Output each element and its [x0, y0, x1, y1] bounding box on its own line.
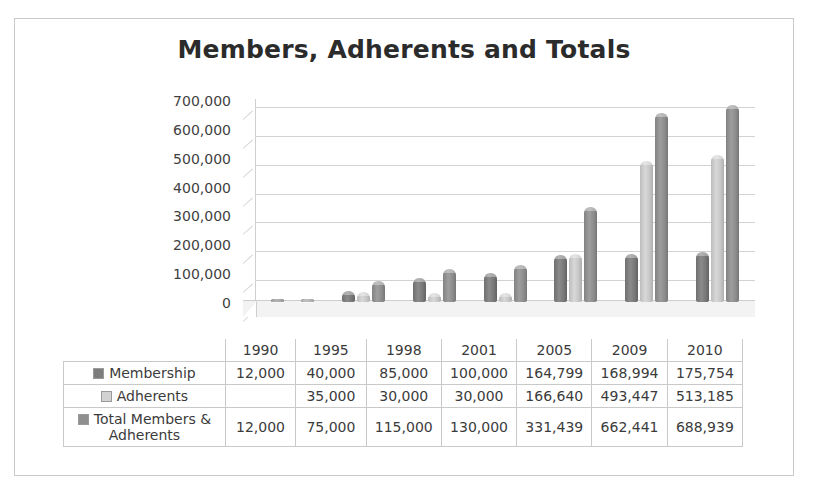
legend-swatch-icon [93, 368, 104, 379]
column-header-1990: 1990 [225, 339, 295, 362]
table-cell: 688,939 [667, 408, 742, 447]
y-axis-tick-label: 500,000 [173, 151, 231, 167]
table-cell [225, 385, 295, 408]
bar-2010-series1 [711, 155, 724, 302]
table-cell: 30,000 [366, 385, 441, 408]
plot-wrapper: 700,000600,000500,000400,000300,000200,0… [125, 99, 785, 329]
chart-frame: Members, Adherents and Totals 700,000600… [14, 18, 794, 476]
y-axis-tick-label: 400,000 [173, 180, 231, 196]
table-cell: 40,000 [296, 362, 366, 385]
plot-area [243, 99, 755, 317]
table-corner-cell [64, 339, 226, 362]
chart-floor [243, 300, 755, 317]
y-axis-tick-label: 100,000 [173, 266, 231, 282]
column-header-1998: 1998 [366, 339, 441, 362]
y-axis-tick-label: 300,000 [173, 208, 231, 224]
column-header-1995: 1995 [296, 339, 366, 362]
table-cell: 164,799 [517, 362, 592, 385]
table-cell: 166,640 [517, 385, 592, 408]
bar-group [611, 101, 682, 302]
bar-1990-series2 [301, 299, 314, 302]
bar-2005-series2 [584, 207, 597, 302]
table-cell: 85,000 [366, 362, 441, 385]
bar-2009-series2 [655, 113, 668, 302]
bar-groups [257, 101, 753, 302]
table-row: Membership12,00040,00085,000100,000164,7… [64, 362, 743, 385]
bar-1995-series1 [357, 292, 370, 302]
bar-group [328, 101, 399, 302]
column-header-2009: 2009 [592, 339, 667, 362]
table-row: Total Members &Adherents12,00075,000115,… [64, 408, 743, 447]
bar-group [682, 101, 753, 302]
column-header-2001: 2001 [441, 339, 516, 362]
table-cell: 75,000 [296, 408, 366, 447]
bar-2005-series0 [554, 255, 567, 302]
data-table-body: 1990199519982001200520092010Membership12… [64, 339, 743, 447]
table-cell: 331,439 [517, 408, 592, 447]
table-header-row: 1990199519982001200520092010 [64, 339, 743, 362]
bar-1995-series2 [372, 281, 385, 302]
series-label-text-line2: Adherents [69, 427, 220, 443]
series-label-cell: Adherents [64, 385, 226, 408]
table-cell: 662,441 [592, 408, 667, 447]
table-cell: 168,994 [592, 362, 667, 385]
bar-2001-series2 [514, 265, 527, 302]
data-table: 1990199519982001200520092010Membership12… [63, 339, 743, 447]
table-row: Adherents 35,00030,00030,000166,640493,4… [64, 385, 743, 408]
column-header-2010: 2010 [667, 339, 742, 362]
y-axis-tick-label: 0 [222, 295, 231, 311]
bar-2005-series1 [569, 254, 582, 302]
series-label-cell: Total Members &Adherents [64, 408, 226, 447]
y-axis-tick-label: 600,000 [173, 122, 231, 138]
page-title: Members, Adherents and Totals [15, 35, 793, 64]
table-cell: 175,754 [667, 362, 742, 385]
bar-2010-series2 [726, 105, 739, 302]
column-header-2005: 2005 [517, 339, 592, 362]
y-axis-tick-label: 200,000 [173, 237, 231, 253]
bar-1995-series0 [342, 291, 355, 302]
bar-2001-series1 [499, 293, 512, 302]
bar-1998-series2 [443, 269, 456, 302]
bar-group [540, 101, 611, 302]
y-axis-tick-label: 700,000 [173, 93, 231, 109]
legend-swatch-icon [78, 414, 89, 425]
legend-swatch-icon [101, 391, 112, 402]
series-label-cell: Membership [64, 362, 226, 385]
table-cell: 12,000 [225, 362, 295, 385]
y-axis-labels: 700,000600,000500,000400,000300,000200,0… [125, 99, 237, 311]
table-cell: 513,185 [667, 385, 742, 408]
series-label-text: Total Members & [94, 411, 211, 427]
table-cell: 12,000 [225, 408, 295, 447]
table-cell: 100,000 [441, 362, 516, 385]
bar-group [257, 101, 328, 302]
table-cell: 493,447 [592, 385, 667, 408]
series-label-text: Membership [109, 365, 196, 381]
bar-1990-series0 [271, 299, 284, 302]
table-cell: 30,000 [441, 385, 516, 408]
bar-1998-series1 [428, 293, 441, 302]
bar-2009-series1 [640, 161, 653, 302]
bar-2001-series0 [484, 273, 497, 302]
series-label-text: Adherents [117, 388, 188, 404]
bar-2010-series0 [696, 252, 709, 302]
bar-1998-series0 [413, 278, 426, 302]
table-cell: 35,000 [296, 385, 366, 408]
table-cell: 115,000 [366, 408, 441, 447]
bar-2009-series0 [625, 254, 638, 302]
bar-group [470, 101, 541, 302]
table-cell: 130,000 [441, 408, 516, 447]
bar-group [399, 101, 470, 302]
